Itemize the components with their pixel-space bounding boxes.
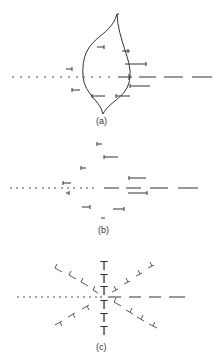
vertical-dislocation-column: T T T T T T [100,258,108,338]
dotted-line [10,187,94,189]
ray-lower-left [55,305,89,326]
ray-lower-right [114,298,157,328]
svg-text:T: T [100,323,108,338]
dotted-line [12,76,110,78]
svg-text:T: T [100,283,108,298]
lens-boundary [83,14,130,114]
dislocation-segments [63,142,147,218]
dislocation-segments [66,45,150,98]
panel-label-b: (b) [98,225,109,235]
panel-label-a: (a) [96,116,107,126]
panel-c: T T T T T T [17,258,185,352]
panel-b: (b) [10,142,198,235]
dotted-line [17,296,102,298]
panel-label-c: (c) [96,342,107,352]
ray-upper-left [55,264,98,293]
diagram-canvas: (a) [0,0,219,360]
panel-a: (a) [12,14,212,126]
ray-upper-right [112,262,154,292]
